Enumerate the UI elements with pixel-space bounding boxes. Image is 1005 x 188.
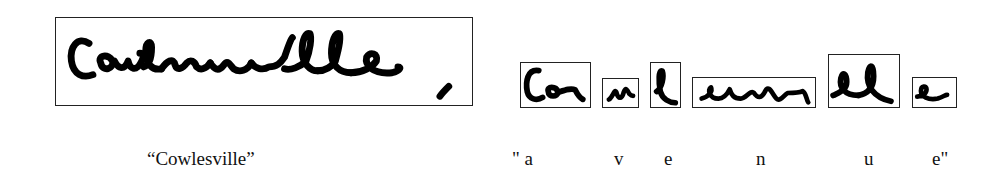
segment-glyph-w xyxy=(603,79,638,107)
segment-glyph-e xyxy=(913,78,956,107)
segment-box-6 xyxy=(912,77,957,108)
segment-glyph-esvi xyxy=(693,78,815,107)
segment-label-6: e" xyxy=(932,149,948,168)
segment-label-3: e xyxy=(664,149,672,168)
word-caption: “Cowlesville” xyxy=(147,149,255,168)
segment-box-4 xyxy=(692,77,816,108)
segment-box-5 xyxy=(828,54,900,108)
segment-label-4: n xyxy=(756,149,766,168)
segment-glyph-l xyxy=(651,63,680,107)
segment-box-1 xyxy=(520,62,591,108)
segment-label-5: u xyxy=(864,149,874,168)
handwriting-cowlesville-image xyxy=(56,18,472,105)
segment-box-2 xyxy=(602,78,639,108)
handwritten-word-box xyxy=(55,17,473,106)
segment-label-1: " a xyxy=(512,149,533,168)
segment-glyph-ll xyxy=(829,55,899,107)
segment-glyph-co xyxy=(521,63,590,107)
segment-box-3 xyxy=(650,62,681,108)
segment-label-2: v xyxy=(614,149,624,168)
